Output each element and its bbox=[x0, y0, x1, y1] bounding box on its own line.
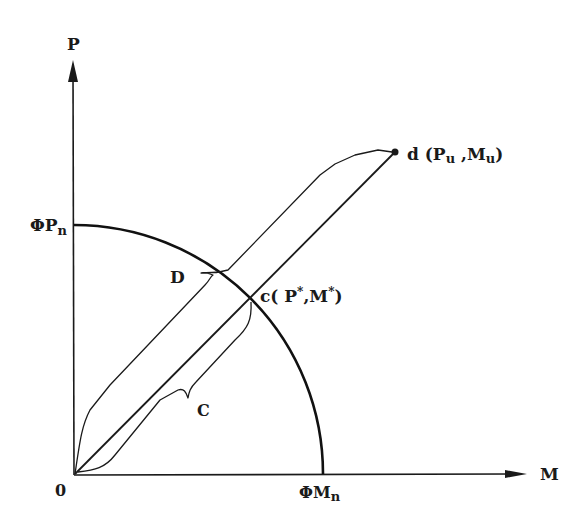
p-axis-arrow-icon bbox=[68, 60, 78, 82]
m-axis-label: M bbox=[540, 464, 559, 484]
load-line bbox=[75, 152, 395, 474]
interaction-diagram: P M 0 ΦPn ΦMn d (Pu ,Mu) D C c( P*,M*) bbox=[0, 0, 578, 518]
phi-pn-label: ΦPn bbox=[30, 215, 68, 238]
point-c-label: c( P*,M*) bbox=[260, 285, 342, 306]
origin-label: 0 bbox=[55, 481, 66, 500]
point-d-label: d (Pu ,Mu) bbox=[407, 144, 503, 166]
point-d-marker bbox=[392, 149, 399, 156]
phi-mn-label: ΦMn bbox=[299, 483, 341, 504]
curve-label-c: C bbox=[197, 401, 210, 420]
curve-label-d: D bbox=[170, 267, 185, 287]
p-axis-label: P bbox=[67, 34, 80, 54]
m-axis-arrow-icon bbox=[505, 470, 527, 478]
m-axis bbox=[74, 470, 527, 478]
p-axis bbox=[68, 60, 78, 475]
